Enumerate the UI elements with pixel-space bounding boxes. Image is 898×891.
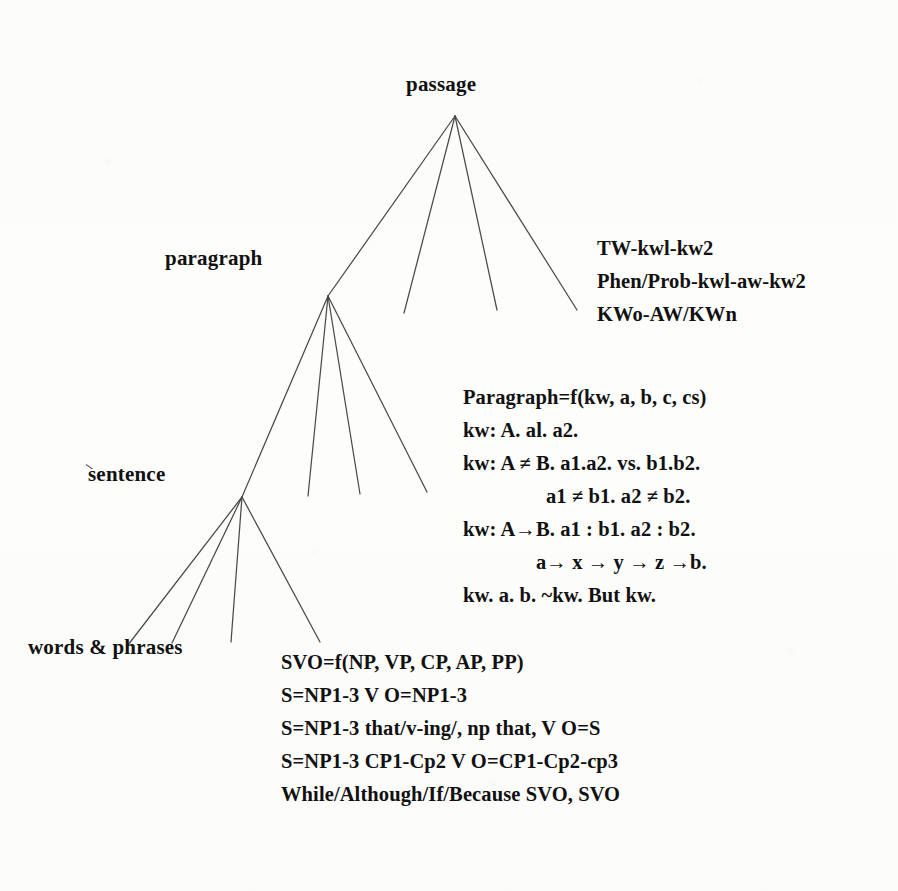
annotation-line: kw. a. b. ~kw. But kw.	[463, 579, 707, 612]
edge-passage-2	[404, 116, 455, 313]
diagram-page: passage paragraph sentence words & phras…	[0, 0, 898, 891]
edge-sentence-2	[172, 497, 242, 643]
annotation-line: kw: A ≠ B. a1.a2. vs. b1.b2.	[463, 447, 707, 480]
annotation-line: kw: A. al. a2.	[463, 414, 707, 447]
annotation-line: a1 ≠ b1. a2 ≠ b2.	[463, 480, 707, 513]
annotation-line: While/Although/If/Because SVO, SVO	[281, 778, 620, 811]
annotation-line: a→ x → y → z →b.	[463, 546, 707, 579]
edge-sentence-4	[242, 497, 320, 642]
edge-paragraph-2	[308, 296, 328, 496]
edge-passage-3	[455, 116, 497, 310]
annotation-block-sentence: SVO=f(NP, VP, CP, AP, PP) S=NP1-3 V O=NP…	[281, 646, 620, 811]
annotation-line: Phen/Prob-kwl-aw-kw2	[597, 265, 806, 298]
edge-sentence-3	[231, 497, 242, 642]
edge-paragraph-1	[242, 296, 328, 497]
annotation-line: Paragraph=f(kw, a, b, c, cs)	[463, 381, 707, 414]
annotation-block-paragraph: Paragraph=f(kw, a, b, c, cs) kw: A. al. …	[463, 381, 707, 612]
edge-sentence-1	[128, 497, 242, 645]
edge-passage-1	[328, 116, 455, 296]
annotation-line: S=NP1-3 CP1-Cp2 V O=CP1-Cp2-cp3	[281, 745, 620, 778]
edge-paragraph-4	[328, 296, 427, 492]
node-label-sentence: sentence	[88, 464, 165, 485]
annotation-block-passage: TW-kwl-kw2 Phen/Prob-kwl-aw-kw2 KWo-AW/K…	[597, 232, 806, 331]
annotation-line: S=NP1-3 V O=NP1-3	[281, 679, 620, 712]
edge-passage-4	[455, 116, 577, 310]
node-label-passage: passage	[406, 74, 476, 95]
annotation-line: TW-kwl-kw2	[597, 232, 806, 265]
node-label-words-and-phrases: words & phrases	[28, 637, 183, 658]
edge-paragraph-3	[328, 296, 360, 494]
annotation-line: SVO=f(NP, VP, CP, AP, PP)	[281, 646, 620, 679]
node-label-paragraph: paragraph	[165, 248, 262, 269]
annotation-line: S=NP1-3 that/v-ing/, np that, V O=S	[281, 712, 620, 745]
annotation-line: KWo-AW/KWn	[597, 298, 806, 331]
annotation-line: kw: A→B. a1 : b1. a2 : b2.	[463, 513, 707, 546]
